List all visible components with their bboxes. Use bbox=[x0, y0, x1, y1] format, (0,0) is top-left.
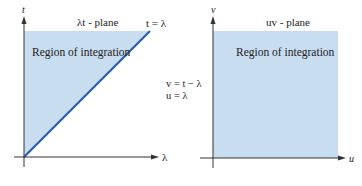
integration-region-diagram: t λ λt - plane t = λ Region of integrati… bbox=[0, 0, 362, 186]
right-plane: v u uv - plane Region of integration bbox=[200, 4, 354, 168]
right-region-label: Region of integration bbox=[236, 46, 335, 59]
right-plane-title: uv - plane bbox=[266, 16, 310, 28]
left-plane: t λ λt - plane t = λ Region of integrati… bbox=[14, 4, 168, 167]
lambda-axis-arrow-icon bbox=[151, 155, 159, 160]
transform-equations: v = t − λ u = λ bbox=[166, 78, 203, 101]
u-axis-arrow-icon bbox=[338, 156, 346, 161]
u-axis-label: u bbox=[349, 153, 354, 164]
v-axis-label: v bbox=[211, 4, 216, 15]
lambda-axis-label: λ bbox=[162, 151, 168, 163]
v-axis-arrow-icon bbox=[211, 16, 216, 24]
transform-v-equation: v = t − λ bbox=[166, 78, 203, 89]
transform-u-equation: u = λ bbox=[166, 90, 188, 101]
t-axis-label: t bbox=[22, 4, 25, 15]
t-axis-arrow-icon bbox=[22, 16, 27, 24]
left-region-label: Region of integration bbox=[32, 46, 131, 59]
left-plane-title: λt - plane bbox=[77, 16, 118, 28]
boundary-label: t = λ bbox=[146, 17, 167, 29]
